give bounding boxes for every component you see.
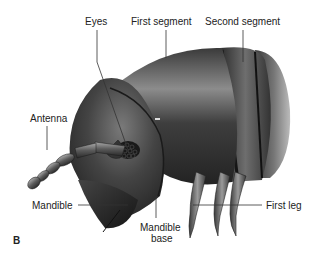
label-first-segment: First segment bbox=[131, 16, 192, 27]
label-first-leg: First leg bbox=[266, 200, 302, 211]
label-mandible: Mandible bbox=[32, 200, 73, 211]
label-antenna: Antenna bbox=[30, 113, 67, 124]
label-mandible-base-line1: Mandible bbox=[140, 222, 181, 233]
insect-anatomy-figure: Eyes First segment Second segment Antenn… bbox=[0, 0, 322, 264]
label-eyes: Eyes bbox=[85, 16, 107, 27]
panel-letter: B bbox=[13, 235, 20, 246]
label-second-segment: Second segment bbox=[205, 16, 280, 27]
label-mandible-base-line2: base bbox=[151, 233, 173, 244]
